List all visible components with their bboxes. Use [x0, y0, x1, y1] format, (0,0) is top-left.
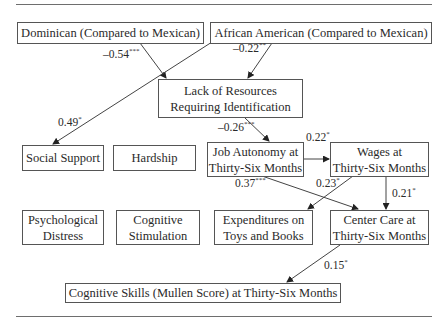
node-lack-of-resources: Lack of Resources Requiring Identificati… — [158, 79, 303, 118]
node-expenditures: Expenditures on Toys and Books — [214, 210, 313, 245]
coef-aa-social: 0.49* — [58, 115, 82, 128]
coef-job-wages: 0.22* — [306, 130, 330, 143]
coef-lack-job: –0.26*** — [218, 120, 254, 133]
coef-wages-center: 0.21* — [392, 186, 416, 199]
node-center-care: Center Care at Thirty-Six Months — [330, 210, 429, 245]
coef-job-center: 0.37*** — [235, 176, 266, 189]
coef-dominican-lack: –0.54*** — [103, 47, 139, 60]
coef-wages-expend: 0.23* — [316, 176, 340, 189]
coef-aa-lack: –0.22** — [233, 41, 266, 54]
node-dominican: Dominican (Compared to Mexican) — [17, 22, 204, 44]
node-cognitive-stimulation: Cognitive Stimulation — [116, 210, 200, 245]
node-job-autonomy: Job Autonomy at Thirty-Six Months — [207, 142, 304, 177]
node-cognitive-skills: Cognitive Skills (Mullen Score) at Thirt… — [65, 283, 341, 303]
node-psychological-distress: Psychological Distress — [22, 210, 104, 245]
node-wages: Wages at Thirty-Six Months — [330, 142, 429, 177]
node-social-support: Social Support — [22, 145, 104, 171]
node-hardship: Hardship — [113, 145, 196, 171]
coef-center-cog: 0.15* — [324, 258, 348, 271]
